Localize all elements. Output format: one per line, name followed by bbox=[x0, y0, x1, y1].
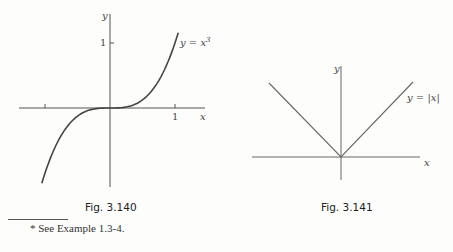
fig-3-140: y 1 1 x y = x3 bbox=[19, 10, 211, 187]
footnote-rule bbox=[8, 219, 68, 220]
figure-caption-3-140: Fig. 3.140 bbox=[85, 201, 137, 213]
y-axis-label: y bbox=[101, 10, 108, 21]
y-tick-label: 1 bbox=[100, 37, 106, 48]
footnote: * See Example 1.3-4. bbox=[30, 222, 124, 234]
x-tick-label: 1 bbox=[172, 111, 178, 122]
figure-caption-3-141: Fig. 3.141 bbox=[321, 201, 373, 213]
x-axis-label: x bbox=[200, 111, 206, 122]
y-axis-label: y bbox=[333, 63, 340, 74]
curve-label: y = |x| bbox=[406, 92, 440, 104]
x-axis-label: x bbox=[424, 157, 430, 168]
fig-3-141: y x y = |x| bbox=[252, 63, 440, 180]
figures-canvas: y 1 1 x y = x3 y x y = |x| bbox=[0, 0, 453, 252]
curve-label: y = x3 bbox=[179, 36, 211, 48]
